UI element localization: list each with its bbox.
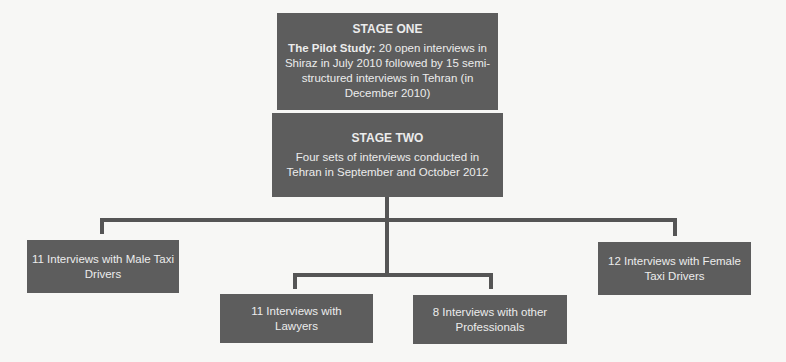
stage-two-text: Four sets of interviews conducted in Teh…	[272, 150, 503, 180]
right-drop-connector	[673, 218, 677, 236]
stage-one-description: The Pilot Study: 20 open interviews in S…	[277, 41, 498, 101]
male-taxi-drivers-box: 11 Interviews with Male Taxi Drivers	[27, 240, 179, 293]
female-taxi-drivers-label: 12 Interviews with Female Taxi Drivers	[598, 254, 751, 284]
trunk-connector	[385, 197, 389, 277]
stage-two-box: STAGE TWO Four sets of interviews conduc…	[272, 113, 503, 197]
female-taxi-drivers-box: 12 Interviews with Female Taxi Drivers	[598, 242, 751, 295]
other-professionals-box: 8 Interviews with other Professionals	[413, 295, 567, 344]
lawyers-box: 11 Interviews with Lawyers	[220, 294, 373, 343]
stage-one-lead: The Pilot Study:	[288, 42, 376, 54]
professionals-drop-connector	[489, 273, 493, 289]
stage-two-title: STAGE TWO	[352, 131, 424, 146]
stage-one-box: STAGE ONE The Pilot Study: 20 open inter…	[277, 13, 498, 110]
lower-horizontal-connector	[293, 273, 493, 277]
left-drop-connector	[100, 218, 104, 234]
lawyers-label: 11 Interviews with Lawyers	[220, 304, 373, 334]
stage-one-title: STAGE ONE	[353, 22, 423, 37]
other-professionals-label: 8 Interviews with other Professionals	[413, 305, 567, 335]
lawyers-drop-connector	[293, 273, 297, 289]
male-taxi-drivers-label: 11 Interviews with Male Taxi Drivers	[27, 252, 179, 282]
upper-horizontal-connector	[100, 218, 677, 222]
